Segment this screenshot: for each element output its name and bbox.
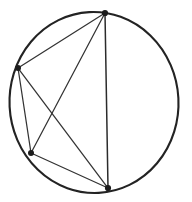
vertex-point-top [102, 10, 108, 16]
chord-side-CD [31, 153, 108, 188]
vertex-point-left [15, 65, 21, 71]
chord-diagonal-AC [31, 13, 105, 153]
chord-side-DA [105, 13, 108, 188]
figure-container [0, 0, 192, 202]
geometry-diagram [0, 0, 192, 202]
vertex-point-lower-left [28, 150, 34, 156]
vertex-point-bottom [105, 185, 111, 191]
chord-diagonal-BD [18, 68, 108, 188]
chord-side-BC [18, 68, 31, 153]
